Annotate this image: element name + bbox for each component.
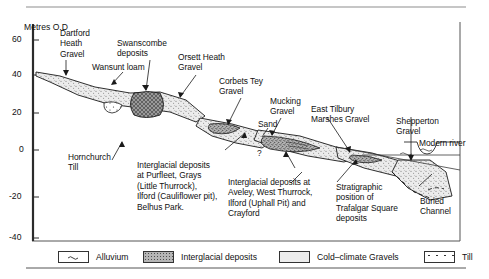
label-hornchurch-till: Hornchurch Till xyxy=(68,152,111,173)
legend-swatch-cold-climate-gravels xyxy=(279,251,310,263)
legend-swatch-alluvium xyxy=(58,251,89,263)
swanscombe-deposits-body xyxy=(131,92,164,118)
shepperton-gravel-body xyxy=(392,160,452,200)
legend-swatch-interglacial-deposits xyxy=(143,251,174,263)
label-buried-channel: Buried Channel xyxy=(420,196,451,217)
y-tick-0: 0 xyxy=(19,144,24,154)
legend-label-interglacial-deposits: Interglacial deposits xyxy=(181,252,257,262)
orsett-heath-gravel-body xyxy=(36,72,205,122)
label-trafalgar-square: Stratigraphic position of Trafalgar Squa… xyxy=(336,182,398,224)
y-tick-40: 40 xyxy=(12,69,22,79)
legend-label-cold-climate-gravels: Cold–climate Gravels xyxy=(317,252,399,262)
hornchurch-till-body xyxy=(104,102,122,113)
label-modern-river: Modern river xyxy=(419,138,465,148)
y-tick-minus20: -20 xyxy=(9,191,21,201)
label-query-mark: ? xyxy=(257,148,262,158)
legend-label-alluvium: Alluvium xyxy=(96,252,128,262)
label-swanscombe-deposits: Swanscombe deposits xyxy=(117,38,167,59)
label-mucking-gravel: Mucking Gravel xyxy=(270,96,301,117)
label-interglacial-aveley: Interglacial deposits at Aveley, West Th… xyxy=(228,177,312,219)
y-tick-60: 60 xyxy=(12,34,22,44)
label-dartford-heath-gravel: Dartford Heath Gravel xyxy=(60,28,90,59)
legend-label-till: Till xyxy=(462,252,473,262)
label-interglacial-purfleet: Interglacial deposits at Purfleet, Grays… xyxy=(137,160,217,212)
legend-swatch-till xyxy=(424,251,455,263)
label-corbets-tey-gravel: Corbets Tey Gravel xyxy=(219,76,263,97)
label-sand: Sand xyxy=(258,119,277,129)
figure-cross-section: Metres O.D 60 40 20 0 -20 -40 Dartford H… xyxy=(0,0,489,279)
y-tick-minus40: -40 xyxy=(9,232,21,242)
y-axis xyxy=(33,24,39,241)
label-orsett-heath-gravel: Orsett Heath Gravel xyxy=(178,52,225,73)
y-tick-20: 20 xyxy=(12,107,22,117)
label-wansunt-loam: Wansunt loam xyxy=(92,62,145,72)
label-shepperton-gravel: Shepperton Gravel xyxy=(396,116,439,137)
label-east-tilbury-marshes-gravel: East Tilbury Marshes Gravel xyxy=(311,104,369,125)
